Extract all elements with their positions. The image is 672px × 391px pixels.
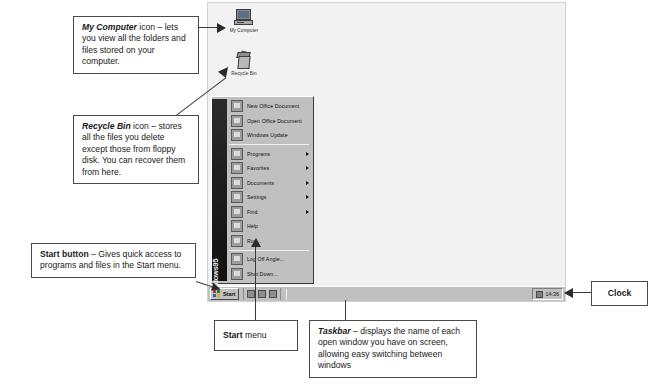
start-menu-item-label: Windows Update — [247, 132, 311, 138]
desktop-icon-my-computer[interactable]: My Computer — [221, 9, 267, 34]
leader-arrow-my-computer — [217, 23, 226, 33]
start-menu-item-label: Settings — [247, 194, 306, 200]
callout-taskbar: Taskbar – displays the name of each open… — [309, 320, 477, 378]
my-computer-icon — [234, 9, 254, 27]
start-menu-item-shut-down[interactable]: Shut Down... — [229, 267, 311, 282]
start-menu-item-documents[interactable]: Documents — [229, 176, 311, 191]
chevron-right-icon — [306, 210, 309, 214]
start-menu-separator — [229, 250, 309, 251]
start-menu-item-label: Favorites — [247, 165, 306, 171]
callout-clock-term: Clock — [608, 288, 631, 298]
chevron-right-icon — [306, 195, 309, 199]
start-button-label: Start — [223, 291, 235, 297]
quick-launch-bar[interactable] — [243, 288, 281, 300]
start-menu-item-windows-update[interactable]: Windows Update — [229, 128, 311, 143]
callout-clock: Clock — [591, 281, 648, 306]
windows-desktop: My Computer Recycle Bin Windows95 New Of… — [207, 2, 566, 302]
documents-icon — [231, 177, 243, 189]
callout-recycle-bin-term: Recycle Bin — [82, 121, 131, 131]
callout-start-button-term: Start button — [40, 249, 89, 259]
chevron-right-icon — [306, 181, 309, 185]
taskbar-clock[interactable]: 14:36 — [546, 291, 560, 297]
run-icon — [231, 235, 243, 247]
start-menu-item-settings[interactable]: Settings — [229, 190, 311, 205]
quick-launch-icon-2[interactable] — [258, 290, 266, 298]
log-off-icon — [231, 253, 243, 265]
help-icon — [231, 220, 243, 232]
find-icon — [231, 206, 243, 218]
start-menu-item-label: Help — [247, 223, 311, 229]
start-menu-item-label: New Office Document — [247, 103, 311, 109]
start-menu-item-new-office-document[interactable]: New Office Document — [229, 99, 311, 114]
start-menu-item-run[interactable]: Run... — [229, 234, 311, 249]
start-menu-item-programs[interactable]: Programs — [229, 147, 311, 162]
programs-icon — [231, 148, 243, 160]
new-office-document-icon — [231, 100, 243, 112]
taskbar-divider — [286, 289, 287, 300]
recycle-bin-icon — [235, 52, 253, 70]
start-menu-item-find[interactable]: Find — [229, 205, 311, 220]
start-menu-item-label: Find — [247, 209, 306, 215]
callout-start-menu: Start menu — [214, 320, 298, 351]
chevron-right-icon — [306, 152, 309, 156]
start-menu-item-label: Documents — [247, 180, 306, 186]
open-office-document-icon — [231, 115, 243, 127]
start-menu-item-label: Programs — [247, 151, 306, 157]
windows-update-icon — [231, 129, 243, 141]
favorites-icon — [231, 162, 243, 174]
start-menu-banner: Windows95 — [212, 99, 227, 281]
settings-icon — [231, 191, 243, 203]
callout-taskbar-term: Taskbar — [318, 326, 351, 336]
start-menu-item-label: Shut Down... — [247, 271, 311, 277]
leader-arrow-clock — [564, 288, 573, 298]
callout-my-computer: My Computer icon – lets you view all the… — [73, 16, 199, 74]
callout-start-menu-text: menu — [243, 330, 267, 340]
taskbar[interactable]: Start 14:36 — [208, 286, 565, 301]
callout-start-menu-term: Start — [223, 330, 243, 340]
start-menu-item-help[interactable]: Help — [229, 219, 311, 234]
leader-line-my-computer — [199, 27, 219, 28]
start-menu-item-label: Log Off Angie... — [247, 256, 311, 262]
leader-line-taskbar — [345, 300, 346, 320]
quick-launch-icon-3[interactable] — [269, 290, 277, 298]
shut-down-icon — [231, 268, 243, 280]
figure-canvas: My Computer icon – lets you view all the… — [0, 0, 672, 391]
leader-arrow-start-menu — [251, 238, 261, 247]
callout-start-button: Start button – Gives quick access to pro… — [31, 243, 196, 278]
callout-recycle-bin: Recycle Bin icon – stores all the files … — [73, 115, 199, 184]
callout-my-computer-term: My Computer — [82, 22, 137, 32]
start-menu-items: New Office Document Open Office Document… — [229, 99, 311, 281]
chevron-right-icon — [306, 166, 309, 170]
leader-line-start-menu — [255, 246, 256, 320]
leader-line-clock — [573, 292, 592, 293]
start-menu-item-open-office-document[interactable]: Open Office Document — [229, 114, 311, 129]
tray-icon-1[interactable] — [536, 291, 543, 298]
start-menu-item-favorites[interactable]: Favorites — [229, 161, 311, 176]
start-menu[interactable]: Windows95 New Office Document Open Offic… — [211, 96, 314, 284]
desktop-icon-my-computer-label: My Computer — [221, 28, 267, 34]
start-menu-separator — [229, 144, 309, 145]
system-tray[interactable]: 14:36 — [532, 288, 564, 300]
start-menu-item-log-off[interactable]: Log Off Angie... — [229, 252, 311, 267]
start-menu-item-label: Open Office Document — [247, 118, 311, 124]
